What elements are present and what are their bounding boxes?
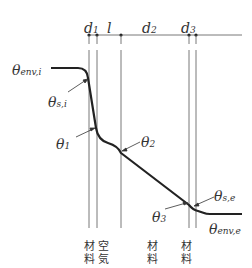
label-theta-env-i: θenv,i bbox=[12, 62, 41, 78]
label-theta-s-i: θs,i bbox=[48, 94, 67, 110]
layer-label-material-1: 材料 bbox=[83, 240, 95, 266]
label-l: l bbox=[107, 20, 111, 36]
layer-label-air: 空気 bbox=[97, 240, 109, 266]
label-theta-env-e: θenv,e bbox=[209, 221, 241, 237]
label-theta-2: θ2 bbox=[141, 134, 155, 150]
label-theta-1: θ1 bbox=[56, 136, 70, 152]
dimension-stubs bbox=[89, 35, 196, 44]
label-theta-3: θ3 bbox=[152, 209, 166, 225]
layer-label-material-2: 材料 bbox=[146, 240, 158, 266]
label-d1: d1 bbox=[84, 20, 99, 36]
label-theta-s-e: θs,e bbox=[214, 188, 235, 204]
label-d2: d2 bbox=[142, 20, 157, 36]
layer-label-material-3: 材料 bbox=[180, 240, 192, 266]
label-d3: d3 bbox=[181, 20, 196, 36]
